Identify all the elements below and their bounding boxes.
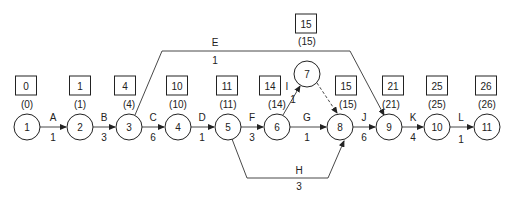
event-node-8: 815(15) bbox=[327, 76, 357, 140]
event-node-11: 1126(26) bbox=[474, 76, 500, 140]
latest-time-value: 11 bbox=[222, 81, 233, 92]
earliest-time-label: (0) bbox=[21, 99, 33, 110]
latest-time-value: 0 bbox=[23, 81, 29, 92]
earliest-time-label: (1) bbox=[74, 99, 86, 110]
latest-time-value: 1 bbox=[77, 81, 83, 92]
activity-b-label: B bbox=[101, 112, 108, 123]
event-node-10: 1025(25) bbox=[424, 76, 450, 140]
activity-a-duration: 1 bbox=[50, 132, 56, 143]
activity-a-label: A bbox=[50, 112, 57, 123]
earliest-time-label: (4) bbox=[123, 99, 135, 110]
node-number: 7 bbox=[304, 69, 310, 80]
event-node-2: 21(1) bbox=[67, 76, 93, 140]
activity-k-label: K bbox=[410, 112, 417, 123]
latest-time-value: 14 bbox=[264, 81, 276, 92]
node-number: 8 bbox=[337, 122, 343, 133]
activity-h-arrow bbox=[232, 139, 344, 178]
node-number: 10 bbox=[431, 122, 443, 133]
activity-d-duration: 1 bbox=[199, 132, 205, 143]
latest-time-value: 15 bbox=[300, 19, 312, 30]
node-number: 2 bbox=[77, 122, 83, 133]
activity-e-duration: 1 bbox=[212, 55, 218, 66]
event-node-5: 511(11) bbox=[215, 76, 241, 140]
activity-l-label: L bbox=[458, 112, 464, 123]
activity-g-duration: 1 bbox=[304, 132, 310, 143]
activity-i-duration: 1 bbox=[290, 94, 296, 105]
earliest-time-label: (26) bbox=[478, 99, 496, 110]
node-number: 1 bbox=[24, 122, 30, 133]
network-diagram: A 1 B 3 C 6 D 1 E 1 F 3 G 1 H 3 I 1 J 6 … bbox=[0, 0, 514, 200]
node-number: 3 bbox=[126, 122, 132, 133]
node-number: 4 bbox=[175, 122, 181, 133]
node-number: 11 bbox=[482, 122, 493, 133]
event-node-7: 715(15) bbox=[294, 14, 320, 87]
latest-time-value: 26 bbox=[480, 81, 492, 92]
earliest-time-label: (15) bbox=[298, 36, 316, 47]
activity-g-label: G bbox=[303, 112, 311, 123]
latest-time-value: 10 bbox=[171, 81, 183, 92]
earliest-time-label: (14) bbox=[268, 99, 286, 110]
earliest-time-label: (25) bbox=[428, 99, 446, 110]
activity-f-label: F bbox=[249, 112, 255, 123]
latest-time-value: 15 bbox=[340, 81, 352, 92]
node-number: 6 bbox=[274, 122, 280, 133]
activity-d-label: D bbox=[198, 112, 205, 123]
activity-k-duration: 4 bbox=[410, 132, 416, 143]
activity-j-label: J bbox=[362, 112, 367, 123]
activity-l-duration: 1 bbox=[458, 134, 464, 145]
earliest-time-label: (15) bbox=[339, 99, 357, 110]
node-number: 5 bbox=[225, 122, 231, 133]
nodes-layer: 10(0)21(1)34(4)410(10)511(11)614(14)715(… bbox=[14, 14, 500, 140]
latest-time-value: 4 bbox=[122, 81, 128, 92]
latest-time-value: 21 bbox=[387, 81, 399, 92]
activity-e-label: E bbox=[212, 37, 219, 48]
latest-time-value: 25 bbox=[431, 81, 443, 92]
activity-h-label: H bbox=[295, 165, 302, 176]
event-node-4: 410(10) bbox=[165, 76, 191, 140]
earliest-time-label: (10) bbox=[169, 99, 187, 110]
activity-f-duration: 3 bbox=[249, 132, 255, 143]
activity-h-duration: 3 bbox=[296, 181, 302, 192]
activity-c-duration: 6 bbox=[150, 132, 156, 143]
activity-c-label: C bbox=[149, 112, 156, 123]
activity-i-label: I bbox=[286, 81, 289, 92]
node-number: 9 bbox=[386, 122, 392, 133]
earliest-time-label: (21) bbox=[382, 99, 400, 110]
earliest-time-label: (11) bbox=[219, 99, 236, 110]
activity-j-duration: 6 bbox=[361, 132, 367, 143]
dummy-activity-arrow bbox=[317, 83, 337, 113]
event-node-1: 10(0) bbox=[14, 76, 40, 140]
activity-b-duration: 3 bbox=[101, 132, 107, 143]
